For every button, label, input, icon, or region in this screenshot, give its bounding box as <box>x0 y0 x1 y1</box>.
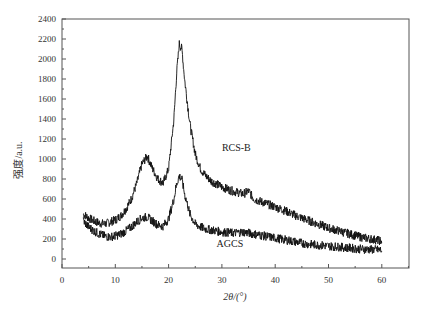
y-tick-label: 1600 <box>38 94 57 104</box>
y-tick-label: 1200 <box>38 134 57 144</box>
y-tick-label: 1400 <box>38 114 57 124</box>
y-tick-label: 0 <box>52 254 57 264</box>
y-tick-label: 2200 <box>38 34 57 44</box>
y-tick-label: 200 <box>43 234 57 244</box>
x-tick-label: 0 <box>60 275 65 285</box>
x-tick-label: 50 <box>324 275 334 285</box>
x-axis-title: 2θ/(°) <box>223 291 247 303</box>
x-tick-label: 20 <box>164 275 174 285</box>
y-axis-title: 强度/a.u. <box>12 141 24 178</box>
y-tick-label: 1800 <box>38 74 57 84</box>
y-tick-label: 1000 <box>38 154 57 164</box>
y-tick-label: 2000 <box>38 54 57 64</box>
y-tick-label: 600 <box>43 194 57 204</box>
x-tick-label: 10 <box>111 275 121 285</box>
y-tick-label: 800 <box>43 174 57 184</box>
series-label-agcs: AGCS <box>217 238 244 249</box>
xrd-chart: 0200400600800100012001400160018002000220… <box>0 0 423 315</box>
y-tick-label: 2400 <box>38 14 57 24</box>
x-tick-label: 60 <box>377 275 387 285</box>
series-label-rcs-b: RCS-B <box>222 142 251 153</box>
x-tick-label: 30 <box>217 275 227 285</box>
x-tick-label: 40 <box>271 275 281 285</box>
y-tick-label: 400 <box>43 214 57 224</box>
x-axis-ticks: 0102030405060 <box>60 264 409 285</box>
